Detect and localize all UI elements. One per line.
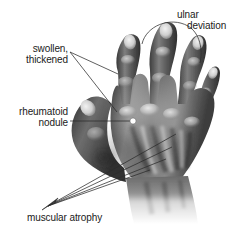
rheumatoid-nodule-marker (130, 118, 136, 124)
label-muscular-atrophy: muscular atrophy (27, 212, 102, 223)
wrist-forearm (118, 176, 214, 227)
label-nodule-line1: rheumatoid (2, 106, 68, 117)
label-swollen-line2: thickened (6, 54, 68, 65)
label-swollen-thickened: swollen, thickened (6, 43, 68, 65)
muscular-atrophy-arrowhead (42, 198, 58, 210)
label-ulnar-line2: deviation (187, 20, 226, 31)
label-rheumatoid-nodule: rheumatoid nodule (2, 106, 68, 128)
label-ulnar-line1: ulnar (177, 9, 199, 20)
rheumatoid-hand-figure: swollen, thickened rheumatoid nodule uln… (0, 0, 245, 227)
label-swollen-line1: swollen, (6, 43, 68, 54)
label-nodule-line2: nodule (2, 117, 68, 128)
hand-photo-group (72, 22, 220, 227)
